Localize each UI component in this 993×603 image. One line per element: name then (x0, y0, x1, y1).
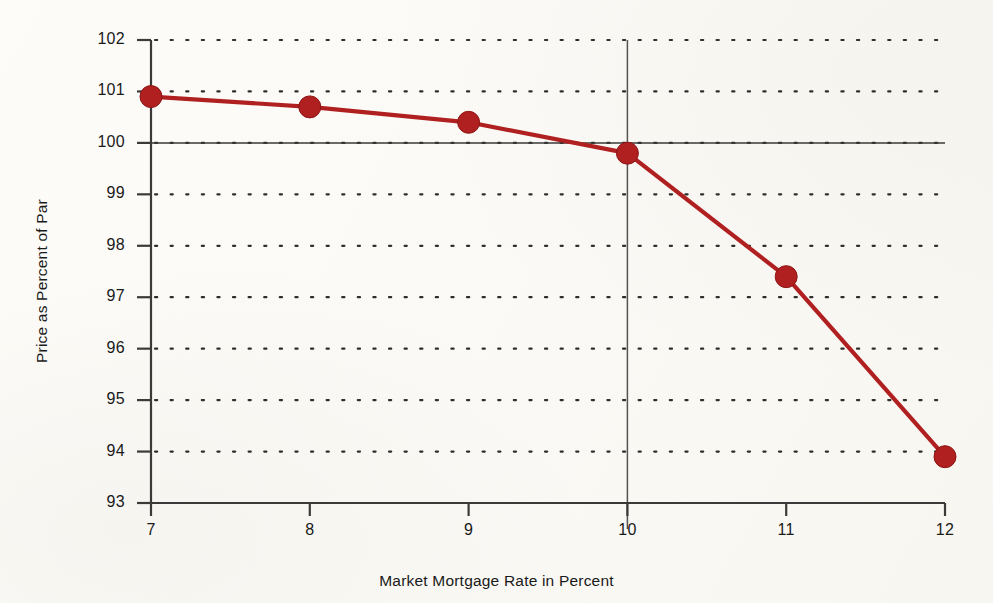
data-point-marker (775, 266, 797, 288)
data-point-marker (616, 142, 638, 164)
x-axis-title: Market Mortgage Rate in Percent (0, 572, 993, 590)
x-tick-label: 12 (920, 521, 970, 539)
data-point-marker (458, 111, 480, 133)
y-tick-label: 96 (79, 339, 125, 357)
x-tick-label: 8 (285, 521, 335, 539)
data-point-marker (934, 446, 956, 468)
y-tick-label: 98 (79, 236, 125, 254)
chart-page: 93949596979899100101102 789101112 Price … (0, 0, 993, 603)
y-tick-label: 93 (79, 493, 125, 511)
y-tick-label: 94 (79, 442, 125, 460)
x-tick-label: 10 (602, 521, 652, 539)
y-axis-title: Price as Percent of Par (33, 151, 51, 411)
y-axis-ticks (137, 40, 151, 503)
y-tick-label: 97 (79, 287, 125, 305)
x-tick-label: 7 (126, 521, 176, 539)
plot-area (0, 0, 993, 603)
y-tick-label: 99 (79, 184, 125, 202)
gridlines (155, 40, 945, 503)
y-tick-label: 100 (79, 133, 125, 151)
y-tick-label: 95 (79, 390, 125, 408)
x-axis-ticks (151, 503, 945, 516)
x-tick-label: 11 (761, 521, 811, 539)
data-point-marker (299, 96, 321, 118)
data-point-marker (140, 86, 162, 108)
x-tick-label: 9 (444, 521, 494, 539)
y-tick-label: 101 (79, 81, 125, 99)
y-tick-label: 102 (79, 30, 125, 48)
data-series-line (151, 97, 945, 457)
line-chart-figure: 93949596979899100101102 789101112 Price … (0, 0, 993, 603)
